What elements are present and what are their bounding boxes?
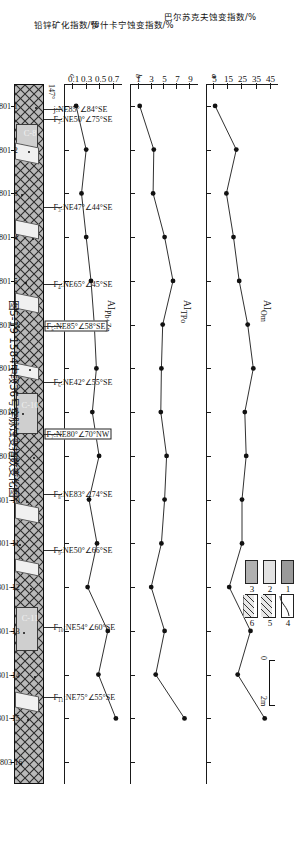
scale-max-label: 2m: [259, 696, 268, 706]
ore-body-label: C-8: [24, 128, 37, 138]
bearing-label: 147°: [47, 84, 56, 99]
legend-swatch: [245, 594, 258, 618]
fault-leader: [44, 207, 62, 208]
fault-leader: [44, 382, 62, 383]
fault-leader: [44, 109, 62, 110]
fault-leader: [44, 119, 62, 120]
axis-tick-label: 0.7: [103, 75, 125, 84]
data-point: [262, 716, 267, 721]
legend-number: 5: [268, 618, 273, 628]
fault-label-f9: F₉:NE50°∠66°SE: [54, 545, 113, 554]
sample-tick: [11, 762, 15, 763]
data-point: [84, 235, 89, 240]
data-point: [162, 497, 167, 502]
sample-label: H801-11: [0, 539, 20, 548]
data-point: [227, 585, 232, 590]
data-point: [149, 585, 154, 590]
data-point: [97, 454, 102, 459]
sample-label: H801-14: [0, 670, 20, 679]
data-point: [240, 497, 245, 502]
data-polyline: [215, 106, 265, 719]
fault-label-f2: F₂:NE50°∠75°SE: [54, 115, 113, 124]
legend-item-4: 4: [278, 594, 294, 626]
data-point: [248, 629, 253, 634]
sample-point: [28, 151, 30, 153]
sample-label: H801-15: [0, 714, 20, 723]
sample-tick: [11, 281, 15, 282]
sample-point: [25, 282, 27, 284]
fault-label-f8: F₈:NE83°∠74°SE: [54, 489, 113, 498]
data-point: [96, 672, 101, 677]
legend-number: 2: [268, 584, 273, 594]
panel-c-axis-title: 铅锌矿化指数/%: [0, 18, 136, 30]
legend-swatch: [263, 594, 276, 618]
legend-number: 3: [250, 584, 255, 594]
data-point: [251, 366, 256, 371]
fault-label-f6: F₆:NE42°∠55°SE: [54, 377, 113, 386]
sample-tick: [11, 543, 15, 544]
sample-label: H801-2: [0, 145, 18, 154]
panel-b-id: b: [134, 74, 144, 79]
data-point: [158, 410, 163, 415]
data-point: [151, 191, 156, 196]
data-point: [240, 541, 245, 546]
sample-tick: [11, 237, 15, 238]
scale-bar: 0 2m: [258, 660, 278, 714]
data-point: [114, 716, 119, 721]
legend-swatch: [245, 560, 258, 584]
fault-leader: [44, 494, 62, 495]
panel-b-label: AITPo: [179, 300, 192, 323]
data-point: [153, 672, 158, 677]
legend-number: 6: [250, 618, 255, 628]
ore-body-label: C-11: [22, 613, 39, 623]
sample-tick: [11, 675, 15, 676]
sample-tick: [11, 150, 15, 151]
legend-item-1: 1: [278, 560, 294, 592]
sample-label: H801-3: [0, 189, 18, 198]
sample-point: [26, 501, 28, 503]
sample-point: [33, 457, 35, 459]
fault-label-f4: F₄:NE65°∠45°SE: [54, 279, 113, 288]
data-point: [79, 191, 84, 196]
figure-caption: 图5-19 1584中段36号穿脉蚀变指数变化图: [7, 300, 22, 497]
legend-item-5: 5: [260, 594, 276, 626]
axis-tick-label: 9: [179, 75, 201, 84]
data-point: [85, 585, 90, 590]
data-point: [171, 279, 176, 284]
sample-point: [35, 107, 37, 109]
fault-leader: [44, 434, 62, 435]
fault-leader: [44, 284, 62, 285]
data-point: [237, 279, 242, 284]
scale-min-label: 0: [259, 656, 268, 660]
sample-label: H801-5: [0, 276, 18, 285]
sample-point: [23, 632, 25, 634]
data-point: [213, 104, 218, 109]
legend-item-2: 2: [260, 560, 276, 592]
data-point: [160, 322, 165, 327]
fault-label-f11: F₁₁:NE75°∠55°SE: [54, 692, 116, 701]
legend-number: 1: [286, 584, 291, 594]
fault-leader: [44, 326, 62, 327]
legend-item-6: 6: [242, 594, 258, 626]
fault-label-f10: F₁₀:NE54°∠60°SE: [54, 622, 116, 631]
data-point: [164, 454, 169, 459]
data-point: [151, 147, 156, 152]
data-point: [90, 410, 95, 415]
sample-point: [34, 676, 36, 678]
data-point: [159, 541, 164, 546]
legend-swatch: [281, 560, 294, 584]
data-point: [159, 366, 164, 371]
panel-a-label: AIOm: [259, 300, 272, 322]
data-point: [162, 235, 167, 240]
series-line-b: [130, 84, 198, 784]
panel-a-id: a: [210, 74, 220, 79]
data-point: [162, 629, 167, 634]
legend-swatch: [281, 594, 294, 618]
legend-number: 4: [286, 618, 291, 628]
sample-label: H801-13: [0, 626, 20, 635]
data-point: [245, 322, 250, 327]
sample-tick: [11, 193, 15, 194]
sample-tick: [11, 631, 15, 632]
sample-label: H801-4: [0, 233, 18, 242]
ore-body-label: C-10: [22, 400, 39, 410]
